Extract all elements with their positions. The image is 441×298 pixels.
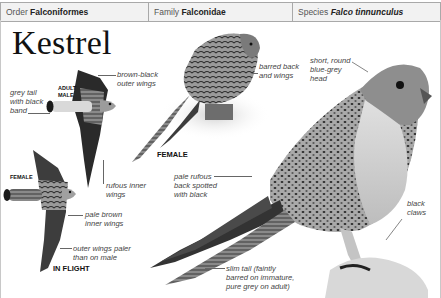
pointer-lines bbox=[0, 0, 441, 298]
field-guide-page: Order Falconiformes Family Falconidae Sp… bbox=[0, 0, 441, 298]
